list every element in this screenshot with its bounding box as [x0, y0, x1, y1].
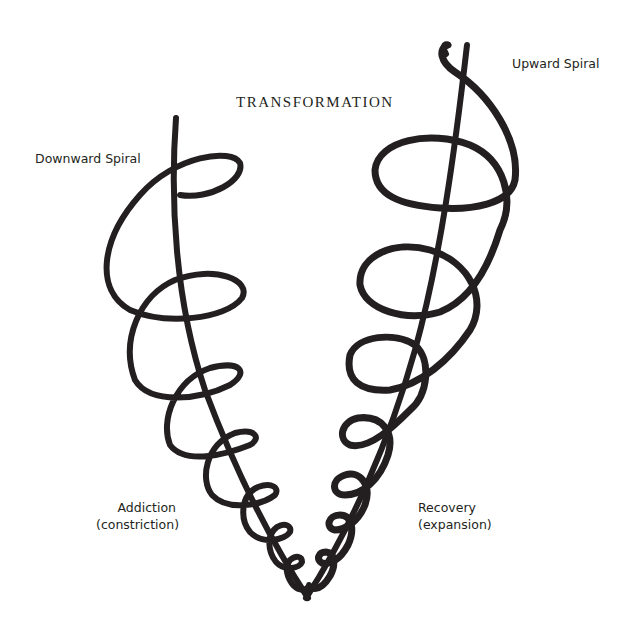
recovery-label-line2: (expansion) — [418, 516, 492, 533]
addiction-label-line1: Addiction — [96, 499, 176, 516]
addiction-label-line2: (constriction) — [96, 516, 176, 533]
recovery-label-line1: Recovery — [418, 499, 492, 516]
upward-spiral-hook — [444, 44, 448, 54]
diagram-title: TRANSFORMATION — [236, 94, 394, 111]
recovery-label: Recovery (expansion) — [418, 499, 492, 533]
downward-spiral-label: Downward Spiral — [35, 150, 141, 167]
upward-spiral-label: Upward Spiral — [512, 55, 599, 72]
transformation-diagram: TRANSFORMATION Downward Spiral Upward Sp… — [0, 0, 631, 634]
addiction-label: Addiction (constriction) — [96, 499, 176, 533]
